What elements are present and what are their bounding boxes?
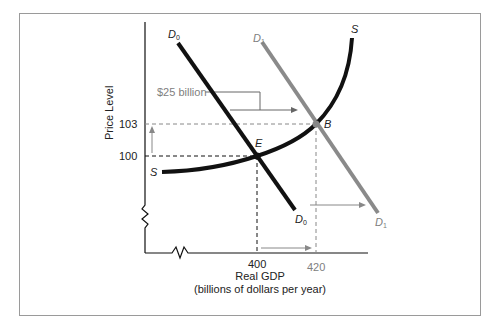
d1-top-label: D1 — [253, 33, 265, 45]
demand-shift-arrow-icon — [359, 202, 366, 208]
d0-bottom-label: D0 — [295, 214, 307, 226]
point-b-label: B — [324, 119, 331, 130]
x-axis-label: Real GDP(billions of dollars per year) — [200, 270, 320, 296]
y-tick-103: 103 — [119, 119, 137, 130]
s-bottom-label: S — [150, 167, 157, 178]
s-top-label: S — [351, 24, 358, 35]
annotation-25-billion: $25 billion — [157, 87, 207, 98]
bracket-arrow-icon — [291, 107, 298, 113]
x-tick-400: 400 — [248, 259, 266, 270]
point-b — [313, 121, 320, 128]
price-up-arrow-icon — [149, 126, 155, 133]
point-e — [254, 153, 261, 160]
y-tick-100: 100 — [119, 151, 137, 162]
point-e-label: E — [255, 138, 262, 149]
gdp-right-arrow-icon — [305, 245, 312, 251]
y-axis-label: Price Level — [103, 86, 115, 140]
y-axis — [142, 22, 148, 253]
d0-top-label: D0 — [168, 29, 180, 41]
d1-bottom-label: D1 — [375, 217, 387, 229]
